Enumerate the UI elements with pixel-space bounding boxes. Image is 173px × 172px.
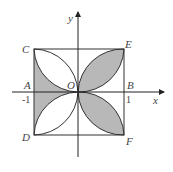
point-D-label: D	[21, 131, 30, 143]
point-C-label: C	[22, 43, 30, 55]
tick-neg-one: -1	[22, 94, 30, 105]
point-F-label: F	[125, 135, 133, 147]
x-axis-label: x	[152, 94, 158, 106]
y-axis-label: y	[67, 12, 73, 24]
point-O-label: O	[67, 79, 75, 91]
point-E-label: E	[124, 38, 132, 50]
point-A-label: A	[23, 79, 31, 91]
point-B-label: B	[127, 79, 134, 91]
tick-one: 1	[126, 94, 131, 105]
geometry-diagram: y x C E A O B D F -1 1	[0, 0, 173, 172]
